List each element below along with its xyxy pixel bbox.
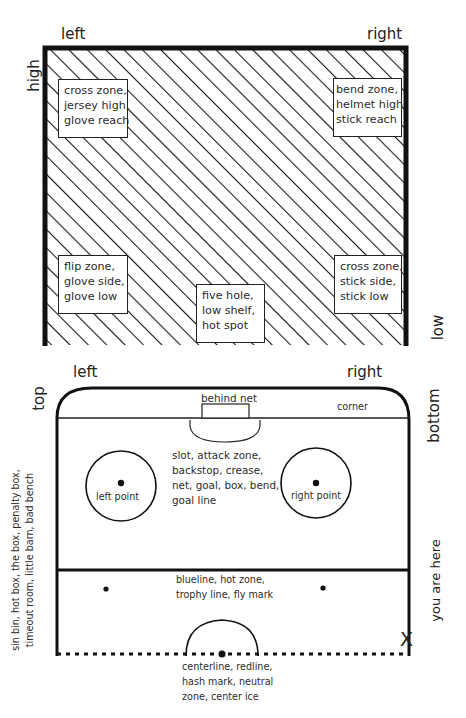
- goal-label-right: right: [367, 27, 402, 42]
- rink-label-left: left: [73, 365, 97, 380]
- rink-boards: [57, 388, 409, 656]
- penalty-line: sin bin, hot box, the box, penalty box,: [9, 445, 23, 675]
- corner-label: corner: [337, 399, 368, 414]
- behind-net-label: behind net: [201, 391, 257, 406]
- penalty-box-text: sin bin, hot box, the box, penalty box, …: [9, 445, 39, 675]
- neutral-dot-left: [103, 586, 108, 591]
- rink-label-top: top: [32, 386, 47, 411]
- right-point-label: right point: [291, 488, 341, 503]
- slot-line: backstop, crease,: [172, 463, 279, 478]
- zone-line: glove low: [64, 289, 127, 304]
- right-faceoff-dot: [313, 480, 319, 486]
- centerline-line: zone, center ice: [182, 689, 273, 704]
- left-faceoff-dot: [118, 480, 124, 486]
- zone-top-right: bend zone, helmet high stick reach: [333, 78, 402, 137]
- slot-line: slot, attack zone,: [172, 448, 279, 463]
- zone-line: flip zone,: [64, 259, 127, 274]
- you-are-here-label: you are here: [429, 539, 442, 621]
- zone-bottom-right: cross zone, stick side, stick low: [334, 255, 402, 314]
- slot-text: slot, attack zone, backstop, crease, net…: [172, 448, 279, 508]
- zone-line: stick reach: [336, 112, 401, 127]
- zone-line: stick low: [340, 289, 401, 304]
- rink-label-bottom: bottom: [427, 388, 442, 442]
- rink-label-right: right: [347, 365, 382, 380]
- centerline-line: centerline, redline,: [182, 659, 273, 674]
- blueline-text: blueline, hot zone, trophy line, fly mar…: [176, 572, 273, 602]
- goal-label-high: high: [27, 59, 42, 92]
- zone-bottom-left: flip zone, glove side, glove low: [58, 255, 128, 314]
- left-point-label: left point: [96, 489, 139, 504]
- zone-line: cross zone,: [340, 259, 401, 274]
- slot-line: goal line: [172, 493, 279, 508]
- blueline-line: trophy line, fly mark: [176, 587, 273, 602]
- centerline-line: hash mark, neutral: [182, 674, 273, 689]
- goal-label-low: low: [431, 315, 446, 341]
- center-dot: [219, 651, 226, 658]
- zone-line: stick side,: [340, 274, 401, 289]
- slot-line: net, goal, box, bend,: [172, 478, 279, 493]
- neutral-dot-right: [320, 585, 325, 590]
- zone-line: glove reach: [64, 113, 127, 128]
- zone-line: helmet high: [336, 97, 401, 112]
- zone-bottom-center: five hole, low shelf, hot spot: [196, 284, 265, 343]
- zone-line: five hole,: [202, 288, 264, 303]
- x-marker-icon: X: [400, 630, 413, 649]
- penalty-line: timeout room, little barn, bad bench: [23, 445, 37, 675]
- zone-line: bend zone,: [336, 82, 401, 97]
- crease: [190, 420, 260, 442]
- zone-line: cross zone,: [64, 83, 127, 98]
- zone-line: jersey high,: [64, 98, 127, 113]
- zone-top-left: cross zone, jersey high, glove reach: [58, 79, 128, 138]
- zone-line: hot spot: [202, 318, 264, 333]
- goal-label-left: left: [61, 27, 85, 42]
- net: [202, 404, 249, 418]
- centerline-text: centerline, redline, hash mark, neutral …: [182, 659, 273, 704]
- zone-line: low shelf,: [202, 303, 264, 318]
- blueline-line: blueline, hot zone,: [176, 572, 273, 587]
- zone-line: glove side,: [64, 274, 127, 289]
